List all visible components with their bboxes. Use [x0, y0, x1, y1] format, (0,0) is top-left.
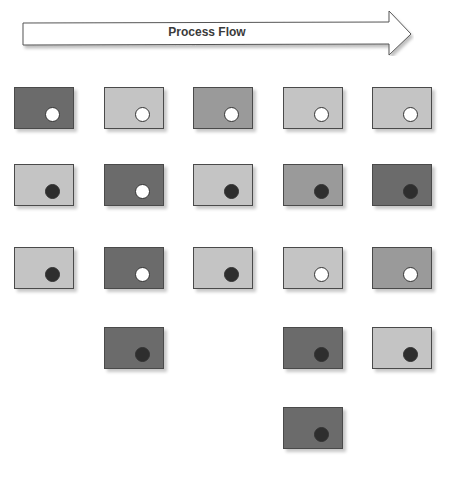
process-box: [372, 87, 432, 129]
white-circle-icon: [403, 267, 418, 282]
black-circle-icon: [403, 184, 418, 199]
process-box: [104, 164, 164, 206]
white-circle-icon: [314, 107, 329, 122]
black-circle-icon: [224, 267, 239, 282]
black-circle-icon: [135, 347, 150, 362]
process-box: [14, 247, 74, 289]
white-circle-icon: [314, 267, 329, 282]
process-box: [193, 87, 253, 129]
process-box: [104, 327, 164, 369]
black-circle-icon: [314, 427, 329, 442]
white-circle-icon: [224, 107, 239, 122]
black-circle-icon: [403, 347, 418, 362]
process-box: [283, 87, 343, 129]
process-box: [14, 87, 74, 129]
black-circle-icon: [45, 267, 60, 282]
black-circle-icon: [314, 184, 329, 199]
black-circle-icon: [224, 184, 239, 199]
white-circle-icon: [135, 107, 150, 122]
white-circle-icon: [135, 184, 150, 199]
process-box: [104, 87, 164, 129]
process-box: [372, 327, 432, 369]
process-box: [193, 247, 253, 289]
black-circle-icon: [314, 347, 329, 362]
process-box: [283, 164, 343, 206]
white-circle-icon: [403, 107, 418, 122]
process-box: [283, 407, 343, 449]
process-box: [104, 247, 164, 289]
process-box: [193, 164, 253, 206]
process-box: [372, 247, 432, 289]
process-flow-label: Process Flow: [22, 22, 392, 42]
process-box: [372, 164, 432, 206]
black-circle-icon: [45, 184, 60, 199]
white-circle-icon: [135, 267, 150, 282]
white-circle-icon: [45, 107, 60, 122]
process-box: [14, 164, 74, 206]
process-box: [283, 327, 343, 369]
process-box: [283, 247, 343, 289]
